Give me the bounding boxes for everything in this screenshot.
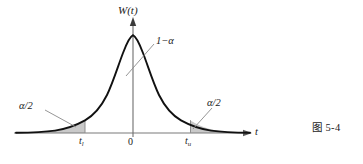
right-tail-probability-label: α/2	[207, 98, 221, 109]
left-tail-probability-label: α/2	[19, 101, 33, 112]
x-axis-label: t	[255, 127, 258, 138]
right-tail-leader-line	[193, 108, 212, 129]
figure-caption-symbol: 图	[312, 121, 322, 133]
lower-bound-subscript: l	[82, 140, 84, 147]
confidence-level-label: 1−α	[156, 36, 174, 47]
normal-distribution-figure	[0, 0, 363, 164]
figure-page: W(t) t 0 tl tu 1−α α/2 α/2 图5-4	[0, 0, 363, 164]
figure-caption-number: 5-4	[325, 122, 340, 133]
upper-bound-subscript: u	[188, 140, 191, 147]
left-tail-leader-line	[45, 110, 76, 127]
y-axis-arrowhead	[130, 17, 136, 26]
origin-label: 0	[128, 137, 133, 147]
y-axis-label: W(t)	[118, 5, 138, 16]
figure-caption: 图5-4	[312, 119, 341, 134]
lower-bound-label: tl	[79, 136, 84, 148]
upper-bound-label: tu	[185, 136, 191, 148]
